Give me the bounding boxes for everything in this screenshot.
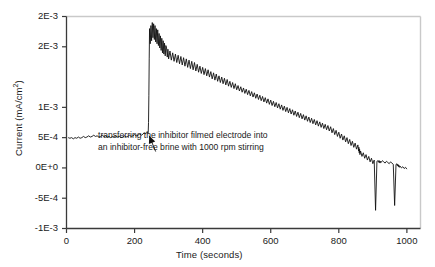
- annotation-line-1: transferring the inhibitor filmed electr…: [98, 130, 268, 142]
- y-tick-label: 1E-3: [8, 101, 58, 112]
- x-tick-label: 200: [110, 235, 160, 246]
- x-tick-label: 1000: [382, 235, 432, 246]
- y-tick-label: -1E-3: [8, 222, 58, 233]
- y-tick-label: 2E-3: [8, 10, 58, 21]
- y-tick-label: 2E-3: [8, 40, 58, 51]
- y-tick-label: 5E-4: [8, 131, 58, 142]
- y-axis-title-base: Current (mA/cm: [13, 88, 24, 156]
- transfer-annotation: transferring the inhibitor filmed electr…: [98, 130, 268, 153]
- x-axis-title: Time (seconds): [176, 249, 243, 260]
- x-tick-label: 400: [178, 235, 228, 246]
- annotation-line-2: an inhibitor-free brine with 1000 rpm st…: [98, 142, 268, 154]
- x-tick-label: 800: [314, 235, 364, 246]
- y-axis-title-tail: ): [13, 80, 24, 83]
- y-axis-title: Current (mA/cm2): [12, 58, 24, 178]
- y-tick-label: -5E-4: [8, 192, 58, 203]
- x-tick-label: 600: [246, 235, 296, 246]
- x-tick-label: 0: [42, 235, 92, 246]
- y-tick-label: 0E+0: [8, 161, 58, 172]
- current-vs-time-chart: Current (mA/cm2) Time (seconds) 2E-32E-3…: [0, 0, 435, 267]
- y-axis-title-superscript: 2: [12, 84, 19, 88]
